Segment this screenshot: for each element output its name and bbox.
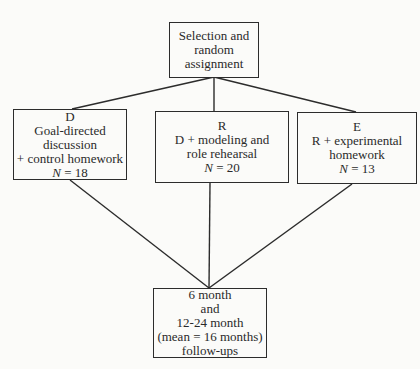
group-code: E xyxy=(353,120,361,134)
node-text-line: 6 month xyxy=(189,288,232,302)
group-r-node: R D + modeling and role rehearsal N = 20 xyxy=(155,111,289,183)
group-description-line: Goal-directed xyxy=(34,124,105,138)
group-description-line: homework xyxy=(329,148,385,162)
n-value: = 13 xyxy=(351,161,375,176)
group-description-line: R + experimental xyxy=(312,134,402,148)
edge-r-to-followup xyxy=(209,183,210,288)
node-text-line: 12-24 month xyxy=(177,316,244,330)
edge-e-to-followup xyxy=(209,184,352,288)
selection-random-assignment-node: Selection and random assignment xyxy=(169,22,259,78)
group-description-line: role rehearsal xyxy=(187,147,257,161)
group-d-node: D Goal-directed discussion + control hom… xyxy=(13,109,127,180)
n-label: N xyxy=(339,161,348,176)
edge-d-to-followup xyxy=(70,180,209,288)
n-label: N xyxy=(52,165,61,180)
group-sample-size: N = 18 xyxy=(52,166,88,180)
group-sample-size: N = 20 xyxy=(204,161,240,175)
node-text-line: (mean = 16 months) xyxy=(157,330,262,344)
group-description-line: + control homework xyxy=(17,152,123,166)
node-text-line: assignment xyxy=(185,57,244,71)
group-code: D xyxy=(65,110,74,124)
group-code: R xyxy=(218,119,227,133)
node-text-line: Selection and xyxy=(179,29,249,43)
group-sample-size: N = 13 xyxy=(339,162,375,176)
node-text-line: follow-ups xyxy=(182,344,238,358)
node-text-line: and xyxy=(201,302,220,316)
group-e-node: E R + experimental homework N = 13 xyxy=(297,112,417,184)
follow-up-node: 6 month and 12-24 month (mean = 16 month… xyxy=(153,288,267,358)
n-value: = 18 xyxy=(64,165,88,180)
n-label: N xyxy=(204,160,213,175)
edge-selection-to-e xyxy=(214,77,356,112)
n-value: = 20 xyxy=(216,160,240,175)
group-description-line: D + modeling and xyxy=(175,133,269,147)
group-description-line: discussion xyxy=(43,138,97,152)
node-text-line: random xyxy=(194,43,234,57)
edge-selection-to-d xyxy=(72,77,214,109)
